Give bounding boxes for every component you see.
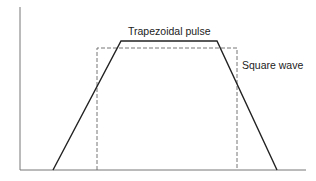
square-wave [97, 48, 237, 170]
square-wave-label: Square wave [242, 60, 303, 71]
trapezoid-label: Trapezoidal pulse [128, 26, 211, 37]
